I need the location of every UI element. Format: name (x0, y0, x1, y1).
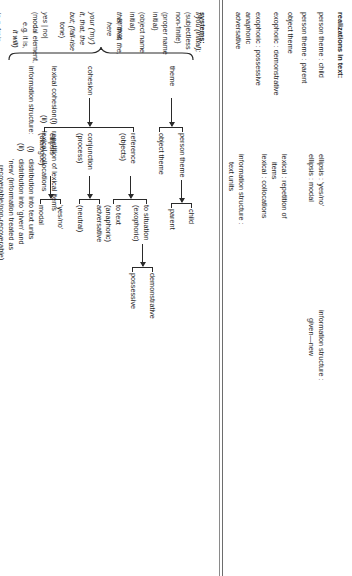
theme-arrow (171, 98, 172, 126)
realization-feature-person-theme-parent: person theme : parent (299, 12, 308, 83)
realization-example-0-1: (subjectless (184, 12, 192, 49)
realization-feature-exophoric-possessive: exophoric : possessive (253, 12, 262, 86)
conjunction-term-adversative: adversative (94, 205, 103, 242)
system-entry-theme: theme (167, 66, 176, 86)
panel-divider-lower (220, 0, 221, 576)
realization-feature-exophoric-demonstrative: exophoric : demonstrative (271, 12, 280, 96)
exophoric-arrow (142, 244, 143, 266)
realization-example-2-1: initial) (128, 12, 136, 31)
realization-example-4-0: your ('my') (88, 12, 96, 45)
exophoric-term-demonstrative: demonstrative (147, 273, 156, 319)
systems-heading: systems: (197, 12, 206, 44)
realization-example-9-0: (e.g. train . . . (0, 12, 2, 54)
cohesion-term-reference: reference (128, 133, 137, 164)
figure-canvas: realizations in text: person theme : chi… (0, 0, 352, 576)
system-entry-cohesion: cohesion (85, 66, 94, 95)
lexical-cohesion-item-0: repetition of lexical items (49, 131, 58, 211)
information-structure-marker-1: (ii) (16, 143, 25, 151)
theme-terms-bracket (159, 127, 183, 132)
realization-feature-lexical-repetition-cont: items (269, 162, 278, 179)
realization-example-1-1: initial) (151, 12, 159, 31)
person-theme-arrow (181, 180, 182, 202)
theme-term-person-theme: person theme (177, 133, 186, 178)
conjunction-terms-bracket (79, 199, 100, 204)
realization-feature-person-theme-child: person theme : child (316, 12, 325, 78)
reference-terms-bracket (113, 199, 147, 204)
realization-example-5-0: it, that, the (78, 12, 86, 45)
system-entry-information-structure: information structure: (26, 66, 35, 135)
exophoric-terms-bracket (132, 267, 153, 272)
theme-term-object-theme: object theme (156, 133, 165, 175)
reference-term-to-text: to text (113, 205, 122, 225)
cohesion-arrow (89, 98, 90, 126)
realization-feature-info-structure-text-units: information structure : (236, 154, 245, 225)
reference-term-to-text-gloss: (anaphoric) (103, 205, 112, 242)
realization-feature-info-structure-given-new: information structure : (316, 310, 325, 381)
realization-example-7-0: yes | no| (41, 12, 49, 39)
realization-feature-object-theme: object theme (285, 12, 294, 54)
ellipsis-term-modal: modal (36, 205, 45, 225)
metafunction-label: textual (116, 19, 125, 41)
information-structure-item-0: distribution into text units (26, 159, 35, 239)
realization-feature-lexical-collocations: lexical : collocations (259, 154, 268, 219)
conjunction-arrow (89, 176, 90, 198)
realization-feature-ellipsis-yes-no: ellipsis : 'yes/no' (316, 154, 325, 206)
reference-term-to-situation: to situation (141, 205, 150, 240)
cohesion-term-conjunction-gloss: (process) (75, 133, 84, 163)
person-theme-terms-bracket (171, 203, 192, 208)
realization-example-3-1: here (105, 22, 113, 36)
reference-term-to-situation-gloss: (exophoric) (131, 205, 140, 242)
person-theme-term-child: child (186, 209, 195, 224)
reference-arrow (130, 176, 131, 198)
realization-example-6-1: tone) (58, 22, 66, 38)
realization-example-0-2: non-finite) (174, 12, 182, 44)
information-structure-item-2: 'new' (information treated as (6, 159, 15, 250)
person-theme-term-parent: parent (167, 209, 176, 230)
lexical-cohesion-marker-1: (ii) (39, 115, 48, 123)
realization-feature-info-structure-given-new-cont: given—new (306, 318, 315, 356)
conjunction-term-neutral: (neutral) (75, 205, 84, 232)
realization-example-8-1: e.g. it is, (21, 22, 29, 48)
cohesion-term-reference-gloss: (objects) (118, 133, 127, 161)
realization-feature-lexical-repetition: lexical : repetition of (279, 154, 288, 219)
realization-feature-anaphoric: anaphoric (243, 12, 252, 44)
information-structure-marker-0: (i) (26, 146, 35, 152)
panel-divider-upper (223, 0, 224, 576)
lexical-cohesion-marker-0: (i) (49, 118, 58, 124)
realizations-heading: realizations in text: (335, 12, 344, 78)
realization-feature-adversative: adversative (233, 12, 242, 49)
textual-brace (8, 46, 194, 62)
realization-feature-ellipsis-modal: ellipsis : modal (306, 154, 315, 202)
exophoric-term-possessive: possessive (128, 273, 137, 309)
lexical-cohesion-item-1: lexical collocations (39, 131, 48, 191)
information-structure-item-1: distribution into 'given' and (16, 159, 25, 245)
system-entry-lexical-cohesion: lexical cohesion: (49, 66, 58, 120)
realization-feature-info-structure-text-units-cont: text units (226, 162, 235, 191)
information-structure-item-3: recoverable/non-recoverable) (0, 165, 5, 260)
cohesion-term-conjunction: conjunction (85, 133, 94, 170)
